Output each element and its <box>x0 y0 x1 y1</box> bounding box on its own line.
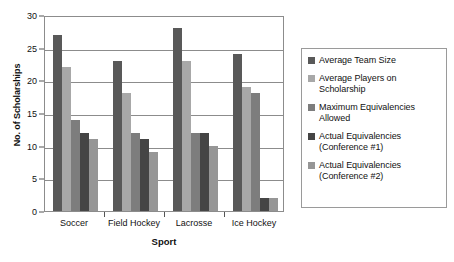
bar <box>173 28 182 211</box>
x-axis-tick-label: Field Hockey <box>108 218 160 228</box>
bar <box>182 61 191 211</box>
legend-item: Average Team Size <box>308 55 441 66</box>
bar-group <box>225 17 285 211</box>
bar-group <box>105 17 165 211</box>
legend-item-label: Actual Equivalencies (Conference #1) <box>319 131 441 153</box>
x-axis-tick-mark <box>104 212 105 217</box>
legend-swatch-icon <box>308 57 315 64</box>
legend-item-label: Average Players on Scholarship <box>319 73 441 95</box>
bar <box>242 87 251 211</box>
bar <box>149 152 158 211</box>
bar <box>80 133 89 211</box>
bars-layer <box>45 17 283 211</box>
bar <box>209 146 218 211</box>
legend-item-label: Average Team Size <box>319 55 396 66</box>
bar <box>200 133 209 211</box>
legend-item: Actual Equivalencies (Conference #1) <box>308 131 441 153</box>
y-axis-tick-label: 5 <box>1 174 37 184</box>
bar <box>89 139 98 211</box>
x-axis-tick-label: Ice Hockey <box>232 218 277 228</box>
legend-swatch-icon <box>308 104 315 111</box>
legend-swatch-icon <box>308 133 315 140</box>
y-axis-tick-label: 10 <box>1 142 37 152</box>
x-axis-labels: SoccerField HockeyLacrosseIce Hockey <box>44 218 284 234</box>
bar-group <box>45 17 105 211</box>
bar <box>62 67 71 211</box>
y-axis-tick-label: 15 <box>1 109 37 119</box>
bar-group <box>165 17 225 211</box>
bar <box>251 93 260 211</box>
bar <box>71 120 80 211</box>
bar <box>140 139 149 211</box>
x-axis-tick-label: Lacrosse <box>176 218 213 228</box>
y-axis-ticks: 051015202530 <box>0 16 44 212</box>
bar <box>53 35 62 211</box>
x-axis-tick-mark <box>224 212 225 217</box>
bar <box>191 133 200 211</box>
bar <box>233 54 242 211</box>
legend-item: Average Players on Scholarship <box>308 73 441 95</box>
bar-chart: No. of Scholarships 051015202530 SoccerF… <box>0 0 292 262</box>
y-axis-tick-label: 0 <box>1 207 37 217</box>
chart-legend: Average Team SizeAverage Players on Scho… <box>301 48 447 208</box>
bar <box>260 198 269 211</box>
x-axis-tick-mark <box>164 212 165 217</box>
legend-item-label: Maximum Equivalencies Allowed <box>319 102 441 124</box>
bar <box>131 133 140 211</box>
y-axis-tick-label: 30 <box>1 11 37 21</box>
x-axis-title: Sport <box>44 236 284 247</box>
bar <box>269 198 278 211</box>
legend-swatch-icon <box>308 75 315 82</box>
legend-swatch-icon <box>308 162 315 169</box>
bar <box>122 93 131 211</box>
legend-item-label: Actual Equivalencies (Conference #2) <box>319 160 441 182</box>
legend-item: Maximum Equivalencies Allowed <box>308 102 441 124</box>
x-axis-tick-label: Soccer <box>60 218 88 228</box>
bar <box>113 61 122 211</box>
plot-area <box>44 16 284 212</box>
y-axis-tick-label: 25 <box>1 44 37 54</box>
legend-item: Actual Equivalencies (Conference #2) <box>308 160 441 182</box>
chart-page: No. of Scholarships 051015202530 SoccerF… <box>0 0 454 262</box>
y-axis-tick-label: 20 <box>1 76 37 86</box>
